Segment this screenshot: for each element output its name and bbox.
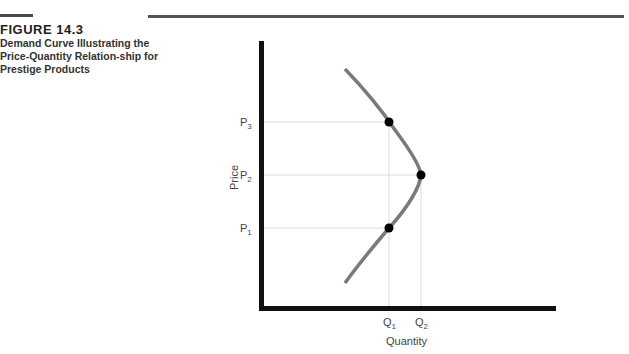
y-axis bbox=[259, 41, 264, 311]
y-tick-p2: P2 bbox=[240, 169, 252, 184]
x-tick-q2: Q2 bbox=[415, 316, 429, 331]
y-tick-p1: P1 bbox=[240, 222, 252, 237]
x-tick-q1: Q1 bbox=[383, 316, 397, 331]
guide-lines bbox=[263, 122, 421, 308]
point-q2-p2 bbox=[417, 171, 426, 180]
point-q1-p1 bbox=[385, 224, 394, 233]
y-axis-label: Price bbox=[228, 165, 240, 190]
y-tick-p3: P3 bbox=[240, 116, 252, 131]
demand-chart: P3 P2 P1 Q1 Q2 Quantity Price bbox=[0, 0, 629, 354]
x-axis-label: Quantity bbox=[386, 335, 427, 347]
point-q1-p3 bbox=[385, 118, 394, 127]
x-axis bbox=[259, 306, 556, 311]
demand-curve bbox=[345, 69, 421, 283]
